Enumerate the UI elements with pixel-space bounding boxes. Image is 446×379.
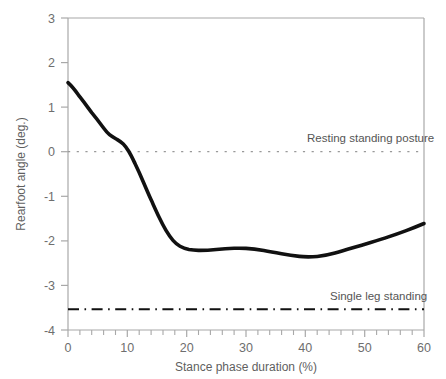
y-axis-title: Rearfoot angle (deg.) [14, 117, 28, 230]
y-axis-ticks [61, 18, 68, 330]
rearfoot-angle-curve [68, 83, 424, 257]
x-tick-label: 0 [65, 341, 72, 355]
x-tick-label: 50 [358, 341, 372, 355]
y-tick-label: 1 [48, 101, 55, 115]
x-tick-label: 60 [417, 341, 431, 355]
annotation-single-leg-standing: Single leg standing [330, 290, 427, 302]
y-tick-label: 3 [48, 12, 55, 26]
x-axis-tick-labels: 0 10 20 30 40 50 60 [65, 341, 431, 355]
x-axis-ticks [68, 330, 424, 337]
x-tick-label: 10 [120, 341, 134, 355]
y-tick-label: -1 [44, 190, 55, 204]
x-tick-label: 30 [239, 341, 253, 355]
y-tick-label: -3 [44, 279, 55, 293]
x-axis-title: Stance phase duration (%) [175, 360, 317, 374]
rearfoot-angle-line-chart: 3 2 1 0 -1 -2 -3 -4 [0, 0, 446, 379]
y-axis-tick-labels: 3 2 1 0 -1 -2 -3 -4 [44, 12, 55, 338]
y-tick-label: 2 [48, 56, 55, 70]
y-tick-label: -2 [44, 234, 55, 248]
chart-figure: 3 2 1 0 -1 -2 -3 -4 [0, 0, 446, 379]
x-tick-label: 40 [298, 341, 312, 355]
y-tick-label: 0 [48, 145, 55, 159]
annotation-resting-standing-posture: Resting standing posture [307, 132, 434, 144]
plot-frame [68, 18, 424, 330]
x-tick-label: 20 [180, 341, 194, 355]
y-tick-label: -4 [44, 324, 55, 338]
